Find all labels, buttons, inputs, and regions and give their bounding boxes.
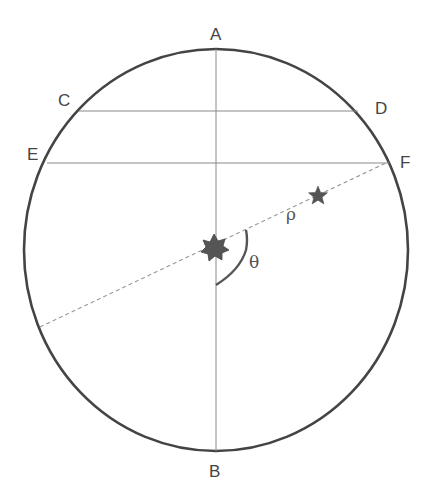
diagram-canvas: A B C D E F ρ θ: [0, 0, 423, 500]
label-e: E: [27, 146, 38, 163]
label-c: C: [58, 92, 70, 109]
label-rho: ρ: [286, 206, 296, 223]
label-d: D: [375, 100, 387, 117]
label-f: F: [400, 154, 410, 171]
companion-star-icon: [309, 186, 328, 204]
diagram-svg: [0, 0, 423, 500]
label-a: A: [210, 26, 221, 43]
label-theta: θ: [249, 254, 259, 271]
primary-star-icon: [201, 234, 229, 261]
label-b: B: [209, 463, 220, 480]
